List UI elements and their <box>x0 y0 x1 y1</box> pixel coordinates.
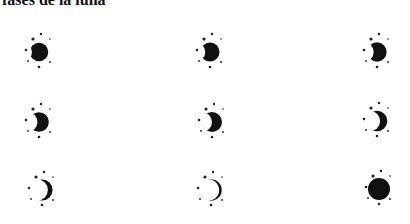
moon-phase-6-icon <box>355 99 399 143</box>
moon-phase-5-icon <box>190 100 234 144</box>
moon-phase-1-icon <box>17 30 61 74</box>
moon-phase-8-icon <box>189 168 233 212</box>
moon-phase-9-icon <box>357 167 401 211</box>
moon-phase-2-icon <box>188 30 232 74</box>
page-title: fases de la luna <box>2 0 106 9</box>
moon-phase-3-icon <box>355 30 399 74</box>
moon-phase-4-icon <box>17 100 61 144</box>
moon-phase-7-icon <box>20 168 64 212</box>
